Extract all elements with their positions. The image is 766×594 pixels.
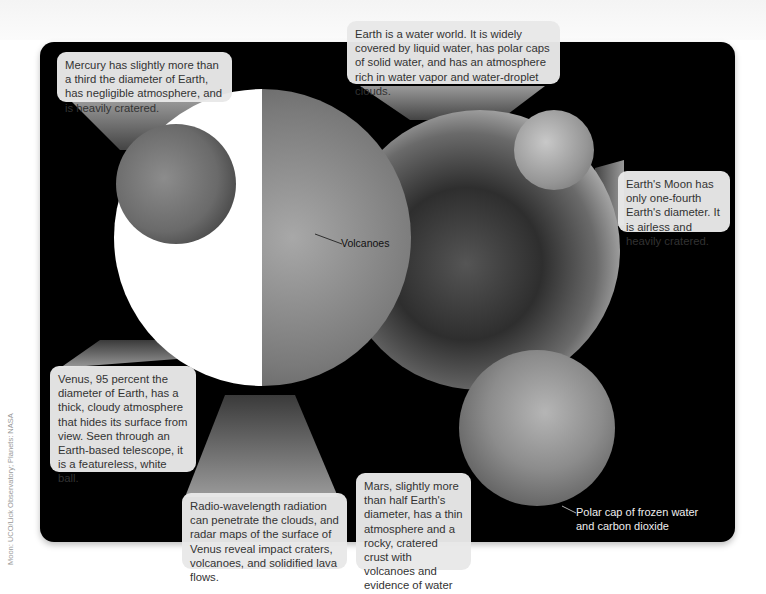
- mars-callout: Mars, slightly more than half Earth's di…: [356, 473, 471, 570]
- volcanoes-label: Volcanoes: [341, 237, 389, 249]
- polar-cap-label: Polar cap of frozen water and carbon dio…: [576, 506, 698, 533]
- venus-callout: Venus, 95 percent the diameter of Earth,…: [50, 366, 196, 472]
- mars-planet: [459, 350, 615, 506]
- radar-callout: Radio-wavelength radiation can penetrate…: [182, 493, 347, 569]
- moon-callout: Earth's Moon has only one-fourth Earth's…: [618, 171, 730, 232]
- polar-cap-line1: Polar cap of frozen water: [576, 506, 698, 520]
- mercury-planet: [116, 124, 236, 244]
- earth-callout: Earth is a water world. It is widely cov…: [347, 21, 560, 84]
- polar-cap-line2: and carbon dioxide: [576, 520, 698, 534]
- image-credit: Moon: UCO/Lick Observatory; Planets: NAS…: [6, 413, 15, 565]
- mercury-callout: Mercury has slightly more than a third t…: [57, 52, 232, 102]
- moon: [514, 110, 594, 190]
